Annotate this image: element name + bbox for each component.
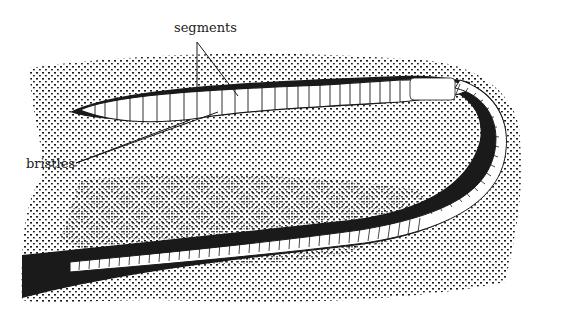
bristles-label: bristles	[26, 156, 75, 171]
earthworm-diagram: segments bristles	[0, 0, 567, 319]
diagram-canvas	[0, 0, 567, 319]
segments-label: segments	[174, 20, 237, 35]
